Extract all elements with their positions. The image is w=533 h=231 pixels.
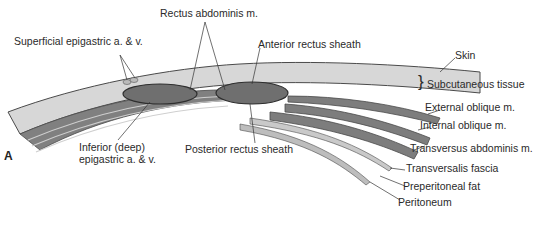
label-internal-oblique: Internal oblique m. (420, 119, 506, 131)
label-external-oblique: External oblique m. (425, 101, 515, 113)
label-posterior-rectus-sheath: Posterior rectus sheath (185, 143, 293, 155)
label-skin: Skin (455, 49, 475, 61)
label-inferior-epigastric-2: epigastric a. & v. (79, 153, 156, 165)
label-preperitoneal-fat: Preperitoneal fat (403, 180, 480, 192)
panel-letter: A (4, 149, 13, 163)
label-inferior-epigastric-1: Inferior (deep) (79, 141, 145, 153)
label-peritoneum: Peritoneum (398, 196, 452, 208)
label-subcutaneous-tissue: Subcutaneous tissue (427, 78, 524, 90)
right-rectus-abdominis (216, 82, 288, 104)
label-anterior-rectus-sheath: Anterior rectus sheath (258, 38, 361, 50)
label-superficial-epigastric: Superficial epigastric a. & v. (14, 35, 143, 47)
label-transversus-abdominis: Transversus abdominis m. (410, 142, 533, 154)
label-transversalis-fascia: Transversalis fascia (406, 162, 498, 174)
subcutaneous-brace: } (418, 73, 424, 90)
left-rectus-abdominis (123, 84, 197, 104)
label-rectus-abdominis: Rectus abdominis m. (160, 7, 258, 19)
